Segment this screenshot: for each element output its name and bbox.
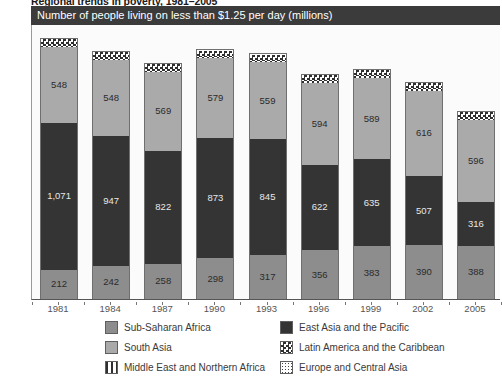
bar-value-label: 242 bbox=[93, 277, 129, 287]
x-axis-boundary-mark bbox=[397, 302, 398, 305]
legend-swatch-icon bbox=[105, 361, 118, 374]
x-axis-tick-mark bbox=[214, 302, 215, 305]
bar-segment: 589 bbox=[353, 78, 391, 159]
bar-value-label: 596 bbox=[458, 156, 494, 166]
legend-label: Sub-Saharan Africa bbox=[124, 321, 211, 334]
bar-column[interactable]: 548947242 bbox=[92, 51, 130, 299]
bar-segment: 507 bbox=[405, 176, 443, 246]
bar-column[interactable]: 579873298 bbox=[196, 49, 234, 299]
bar-column[interactable]: 569822258 bbox=[144, 63, 182, 299]
bar-group: 5481,07121254894724256982225857987329855… bbox=[33, 25, 500, 299]
bar-column[interactable]: 5481,071212 bbox=[40, 38, 78, 299]
bar-segment: 548 bbox=[40, 47, 78, 122]
bar-segment: 569 bbox=[144, 72, 182, 150]
bar-segment: 594 bbox=[301, 83, 339, 165]
bar-value-label: 548 bbox=[41, 80, 77, 90]
bar-column[interactable]: 596316388 bbox=[457, 111, 495, 299]
bar-segment: 390 bbox=[405, 245, 443, 299]
legend-swatch-icon bbox=[280, 341, 293, 354]
chart-legend: Sub-Saharan AfricaSouth AsiaMiddle East … bbox=[31, 318, 500, 378]
x-axis-tick-mark bbox=[110, 302, 111, 305]
x-axis-boundary-mark bbox=[32, 302, 33, 305]
bar-segment: 212 bbox=[40, 270, 78, 299]
bar-value-label: 569 bbox=[145, 106, 181, 116]
legend-swatch-icon bbox=[105, 341, 118, 354]
x-axis-tick-mark bbox=[423, 302, 424, 305]
bar-segment: 596 bbox=[457, 120, 495, 202]
bar-value-label: 258 bbox=[145, 276, 181, 286]
bar-segment: 388 bbox=[457, 246, 495, 299]
bar-segment: 1,071 bbox=[40, 123, 78, 270]
bar-value-label: 947 bbox=[93, 196, 129, 206]
bar-segment: 616 bbox=[405, 91, 443, 176]
x-axis-boundary-mark bbox=[84, 302, 85, 305]
bar-value-label: 873 bbox=[197, 193, 233, 203]
bar-value-label: 507 bbox=[406, 206, 442, 216]
bar-value-label: 594 bbox=[302, 119, 338, 129]
x-axis-boundary-mark bbox=[240, 302, 241, 305]
bar-column[interactable]: 559845317 bbox=[249, 53, 287, 299]
bar-value-label: 390 bbox=[406, 267, 442, 277]
legend-label: Middle East and Northern Africa bbox=[124, 361, 265, 374]
bar-value-label: 298 bbox=[197, 274, 233, 284]
bar-segment: 383 bbox=[353, 246, 391, 299]
bar-value-label: 383 bbox=[354, 268, 390, 278]
x-axis-boundary-mark bbox=[345, 302, 346, 305]
bar-value-label: 822 bbox=[145, 202, 181, 212]
x-axis-boundary-mark bbox=[136, 302, 137, 305]
bar-segment: 873 bbox=[196, 138, 234, 258]
bar-value-label: 316 bbox=[458, 219, 494, 229]
legend-label: Europe and Central Asia bbox=[299, 361, 407, 374]
legend-swatch-icon bbox=[280, 361, 293, 374]
x-axis: 198119841987199019931996199920022005 bbox=[32, 302, 501, 318]
bar-segment: 635 bbox=[353, 159, 391, 246]
bar-value-label: 212 bbox=[41, 279, 77, 289]
legend-swatch-icon bbox=[105, 321, 118, 334]
bar-segment: 298 bbox=[196, 258, 234, 299]
x-axis-tick-mark bbox=[371, 302, 372, 305]
legend-label: East Asia and the Pacific bbox=[299, 321, 409, 334]
bar-value-label: 616 bbox=[406, 128, 442, 138]
bar-value-label: 845 bbox=[250, 192, 286, 202]
bar-segment: 622 bbox=[301, 165, 339, 251]
x-axis-tick-mark bbox=[267, 302, 268, 305]
bar-value-label: 635 bbox=[354, 198, 390, 208]
bar-column[interactable]: 616507390 bbox=[405, 82, 443, 299]
legend-item[interactable]: East Asia and the Pacific bbox=[280, 318, 409, 336]
bar-segment: 356 bbox=[301, 250, 339, 299]
legend-item[interactable]: Sub-Saharan Africa bbox=[105, 318, 211, 336]
legend-item[interactable]: South Asia bbox=[105, 338, 172, 356]
chart-title-banner: Number of people living on less than $1.… bbox=[31, 6, 500, 25]
x-axis-tick-mark bbox=[162, 302, 163, 305]
bar-segment: 559 bbox=[249, 62, 287, 139]
bar-segment: 579 bbox=[196, 58, 234, 138]
legend-swatch-icon bbox=[280, 321, 293, 334]
bar-column[interactable]: 594622356 bbox=[301, 74, 339, 299]
x-axis-tick-mark bbox=[475, 302, 476, 305]
plot-area: 5481,07121254894724256982225857987329855… bbox=[31, 25, 500, 300]
x-axis-boundary-mark bbox=[293, 302, 294, 305]
bar-value-label: 388 bbox=[458, 267, 494, 277]
bar-segment: 316 bbox=[457, 202, 495, 245]
bar-value-label: 559 bbox=[250, 96, 286, 106]
x-axis-tick-mark bbox=[319, 302, 320, 305]
legend-label: South Asia bbox=[124, 341, 172, 354]
bar-segment: 258 bbox=[144, 264, 182, 299]
x-axis-boundary-mark bbox=[449, 302, 450, 305]
bar-segment: 845 bbox=[249, 139, 287, 255]
bar-segment: 947 bbox=[92, 136, 130, 266]
legend-label: Latin America and the Caribbean bbox=[299, 341, 445, 354]
bar-value-label: 579 bbox=[197, 93, 233, 103]
legend-item[interactable]: Europe and Central Asia bbox=[280, 358, 407, 376]
bar-value-label: 1,071 bbox=[41, 191, 77, 201]
legend-item[interactable]: Latin America and the Caribbean bbox=[280, 338, 445, 356]
plot-inner: 5481,07121254894724256982225857987329855… bbox=[32, 25, 500, 299]
bar-column[interactable]: 589635383 bbox=[353, 69, 391, 299]
bar-segment: 822 bbox=[144, 151, 182, 264]
bar-segment: 242 bbox=[92, 266, 130, 299]
x-axis-boundary-mark bbox=[188, 302, 189, 305]
bar-value-label: 548 bbox=[93, 93, 129, 103]
legend-item[interactable]: Middle East and Northern Africa bbox=[105, 358, 265, 376]
bar-segment: 317 bbox=[249, 255, 287, 299]
bar-value-label: 356 bbox=[302, 270, 338, 280]
